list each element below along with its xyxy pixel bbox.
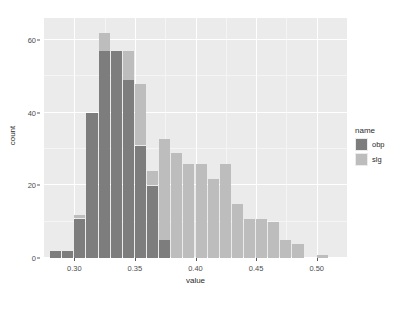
y-tick-label: 0	[32, 254, 36, 263]
legend-label-obp: obp	[372, 140, 385, 149]
y-tick-label: 40	[28, 108, 36, 117]
x-tick-mark	[196, 258, 197, 261]
histogram-bar-slg	[196, 164, 207, 258]
y-tick-label: 60	[28, 35, 36, 44]
legend-swatch-obp	[356, 139, 367, 150]
y-tick-mark	[37, 39, 40, 40]
y-tick-label: 20	[28, 181, 36, 190]
x-tick-label: 0.30	[67, 264, 82, 273]
legend-title: name	[355, 126, 415, 135]
histogram-bar-slg	[171, 153, 182, 258]
legend-item-slg[interactable]: slg	[355, 153, 415, 166]
histogram-bar-slg	[208, 179, 219, 259]
histogram-bar-slg	[220, 164, 231, 258]
histogram-bar-obp	[62, 251, 73, 258]
gridline-x-minor	[286, 18, 287, 258]
legend-item-obp[interactable]: obp	[355, 138, 415, 151]
plot-panel	[44, 18, 347, 258]
x-axis-title: value	[44, 276, 347, 285]
histogram-bar-slg	[147, 171, 158, 185]
histogram-bar-slg	[292, 244, 303, 258]
histogram-bar-obp	[147, 186, 158, 258]
y-tick-mark	[37, 112, 40, 113]
x-tick-mark	[317, 258, 318, 261]
histogram-bar-slg	[232, 204, 243, 258]
y-tick-mark	[37, 258, 40, 259]
y-axis-title-text: count	[9, 125, 18, 145]
x-tick-label: 0.40	[188, 264, 203, 273]
histogram-bar-slg	[74, 215, 85, 218]
histogram-bar-slg	[135, 84, 146, 145]
x-tick-label: 0.45	[249, 264, 264, 273]
histogram-bar-obp	[159, 240, 170, 258]
x-tick-mark	[74, 258, 75, 261]
histogram-chart: count 0204060 0.300.350.400.450.50 value…	[0, 0, 420, 312]
x-tick-label: 0.35	[128, 264, 143, 273]
histogram-bar-slg	[123, 51, 134, 80]
histogram-bar-slg	[256, 219, 267, 259]
y-tick-mark	[37, 185, 40, 186]
histogram-bar-slg	[268, 222, 279, 258]
legend-swatch-slg	[356, 154, 367, 165]
legend-items: obpslg	[355, 138, 415, 166]
histogram-bar-obp	[135, 146, 146, 258]
x-tick-mark	[256, 258, 257, 261]
histogram-bar-slg	[99, 33, 110, 51]
legend-label-slg: slg	[372, 155, 382, 164]
histogram-bar-obp	[86, 113, 97, 258]
histogram-bar-obp	[50, 251, 61, 258]
x-axis-tick-labels: 0.300.350.400.450.50	[44, 258, 347, 274]
histogram-bar-obp	[123, 80, 134, 258]
histogram-bar-obp	[74, 219, 85, 259]
histogram-bar-obp	[111, 51, 122, 258]
x-tick-label: 0.50	[309, 264, 324, 273]
histogram-bar-obp	[99, 51, 110, 258]
histogram-bar-slg	[280, 240, 291, 258]
histogram-bar-slg	[159, 139, 170, 240]
legend-key	[355, 138, 368, 151]
legend-key	[355, 153, 368, 166]
x-tick-mark	[135, 258, 136, 261]
histogram-bar-slg	[244, 219, 255, 259]
y-axis-tick-labels: 0204060	[18, 18, 40, 258]
gridline-x-major	[317, 18, 318, 258]
histogram-bar-slg	[183, 164, 194, 258]
legend: name obpslg	[355, 126, 415, 168]
